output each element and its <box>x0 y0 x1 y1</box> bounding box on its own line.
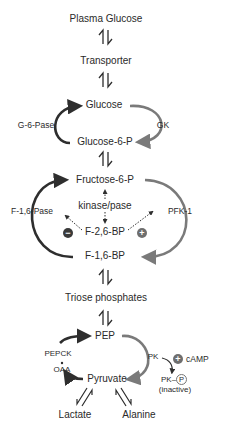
pepck-oaa-dot <box>61 362 63 364</box>
lactate-reversible-arrow <box>77 388 92 406</box>
phosphate-circle-icon: P <box>176 374 187 385</box>
f-2-6-bp-label: F-2,6-BP <box>85 227 125 237</box>
f16pase-label: F-1,6-Pase <box>11 207 53 216</box>
f-1-6-bp-label: F-1,6-BP <box>85 251 125 261</box>
alanine-reversible-arrow <box>116 388 131 406</box>
pyruvate-label: Pyruvate <box>87 374 126 384</box>
pk-label: PK <box>148 353 159 361</box>
reversible-arrow-4 <box>99 270 112 284</box>
gk-label: GK <box>157 121 169 130</box>
triose-phosphates-label: Triose phosphates <box>65 293 147 303</box>
kinase-pase-label: kinase/pase <box>78 201 131 211</box>
pepck-arrow <box>60 336 87 343</box>
pfk1-label: PFK-1 <box>168 207 192 216</box>
oaa-label: OAA <box>54 366 71 374</box>
pk-phosphorylated-label: PK–P <box>161 374 187 385</box>
glucose-label: Glucose <box>86 100 123 110</box>
alanine-label: Alanine <box>122 410 155 420</box>
reversible-arrow-1 <box>99 30 112 44</box>
reversible-arrow-5 <box>99 311 112 325</box>
reversible-arrow-3 <box>99 152 112 166</box>
plasma-glucose-label: Plasma Glucose <box>70 14 143 24</box>
pfk1-arrow <box>145 180 186 257</box>
pep-label: PEP <box>95 331 115 341</box>
camp-plus-icon: + <box>173 354 183 364</box>
g6pase-arrow <box>55 106 78 143</box>
activate-plus-icon: + <box>137 228 147 238</box>
glucose-6-p-label: Glucose-6-P <box>77 137 133 147</box>
pk-phosphorylation-arrow <box>162 358 172 372</box>
inhibit-minus-icon: − <box>63 228 73 238</box>
reversible-arrow-2 <box>99 73 112 87</box>
camp-label: cAMP <box>186 355 209 364</box>
f16pase-arrow <box>32 180 73 257</box>
fructose-6-p-label: Fructose-6-P <box>76 175 134 185</box>
g6pase-label: G-6-Pase <box>18 121 54 130</box>
lactate-label: Lactate <box>59 410 92 420</box>
pepck-label: PEPCK <box>44 350 71 358</box>
pk-dash-text: PK– <box>161 375 176 384</box>
inactive-label: (inactive) <box>159 386 191 394</box>
transporter-label: Transporter <box>80 56 131 66</box>
